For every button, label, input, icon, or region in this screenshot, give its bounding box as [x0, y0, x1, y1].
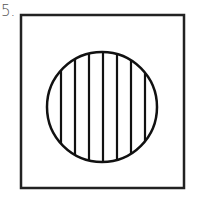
striped-circle-diagram	[0, 0, 202, 198]
